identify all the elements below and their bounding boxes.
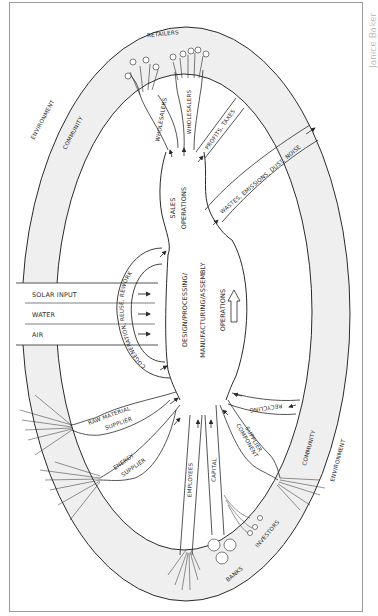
input-water-label: WATER (32, 311, 56, 319)
sales-operations-label: OPERATIONS (180, 187, 188, 230)
employees-label: EMPLOYEES (186, 462, 193, 497)
input-solar-label: SOLAR INPUT (32, 291, 77, 299)
sales-label: SALES (169, 197, 177, 218)
author-credit: Janice Baker (366, 2, 378, 72)
author-credit-text: Janice Baker (368, 13, 378, 68)
capital-label: CAPITAL (211, 457, 218, 482)
wholesalers-right-label: WHOLESALERS (186, 89, 192, 134)
input-air-label: AIR (32, 331, 44, 339)
design-label-line1: DESIGN/PROCESSING/ (181, 272, 189, 347)
design-label-line2: MANUFACTURING/ASSEMBLY (199, 262, 207, 357)
operations-label: OPERATIONS (219, 289, 227, 332)
